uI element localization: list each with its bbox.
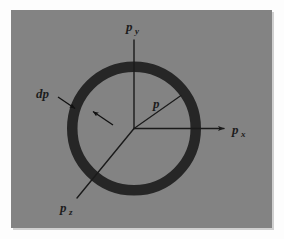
pz-label-main: p <box>59 200 67 215</box>
momentum-shell-diagram: p y p x p z p dp <box>0 0 284 239</box>
shell-thickness-label-dp: dp <box>36 86 50 101</box>
radius-label-p: p <box>152 96 160 111</box>
figure-panel <box>11 10 272 228</box>
pz-label-subscript: z <box>68 207 73 217</box>
py-label-main: p <box>125 19 133 34</box>
px-label-subscript: x <box>240 129 246 139</box>
px-label-main: p <box>231 122 239 137</box>
figure-root: p y p x p z p dp <box>0 0 284 239</box>
